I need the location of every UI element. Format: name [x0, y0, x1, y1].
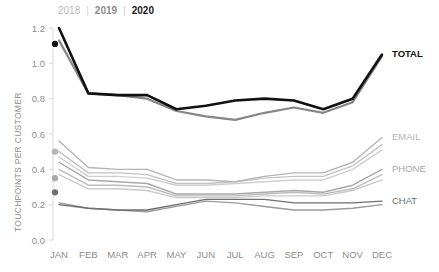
series-lines	[59, 28, 382, 212]
chart-container: 2018 | 2019 | 2020 TOUCHPOINTS PER CUSTO…	[0, 0, 439, 272]
series-line	[59, 150, 382, 185]
series-label-email: EMAIL	[392, 131, 421, 142]
x-tick-label: APR	[137, 249, 157, 260]
series-start-marker	[52, 149, 58, 155]
x-tick-label: MAY	[167, 249, 188, 260]
x-tick-label: MAR	[107, 249, 128, 260]
series-line	[59, 145, 382, 184]
x-tick-label: JUN	[197, 249, 216, 260]
series-start-marker	[52, 189, 58, 195]
y-tick-label: 1.2	[32, 23, 45, 34]
y-tick-label: 0.0	[32, 235, 45, 246]
x-tick-label: JUL	[227, 249, 244, 260]
y-axis-ticks: 0.00.20.40.60.81.01.2	[32, 23, 53, 246]
series-line	[59, 28, 382, 109]
series-line	[59, 40, 382, 120]
line-chart-plot: 0.00.20.40.60.81.01.2 JANFEBMARAPRMAYJUN…	[0, 0, 439, 272]
x-axis-ticks: JANFEBMARAPRMAYJUNJULAUGSEPOCTNOVDEC	[50, 249, 392, 260]
series-line	[59, 199, 382, 210]
series-start-marker	[52, 41, 58, 47]
series-end-labels: TOTALEMAILPHONECHAT	[392, 48, 426, 206]
x-tick-label: AUG	[254, 249, 275, 260]
series-start-marker	[52, 175, 58, 181]
x-tick-label: DEC	[372, 249, 392, 260]
series-label-chat: CHAT	[392, 195, 417, 206]
x-tick-label: SEP	[284, 249, 303, 260]
y-tick-label: 0.4	[32, 164, 45, 175]
x-tick-label: NOV	[342, 249, 363, 260]
series-label-total: TOTAL	[392, 48, 423, 59]
y-tick-label: 1.0	[32, 58, 45, 69]
series-line	[59, 138, 382, 182]
x-tick-label: FEB	[79, 249, 97, 260]
series-label-phone: PHONE	[392, 163, 426, 174]
x-tick-label: OCT	[313, 249, 333, 260]
y-tick-label: 0.8	[32, 93, 45, 104]
y-tick-label: 0.2	[32, 199, 45, 210]
y-tick-label: 0.6	[32, 129, 45, 140]
x-tick-label: JAN	[50, 249, 68, 260]
